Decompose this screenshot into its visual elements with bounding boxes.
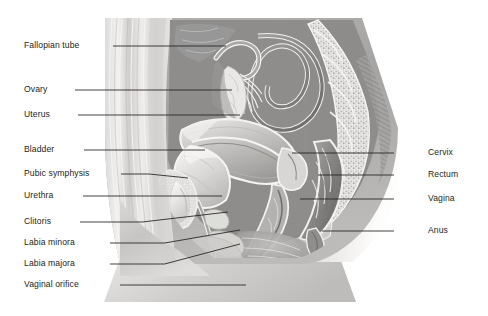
label-rectum: Rectum xyxy=(428,169,458,179)
label-vaginal-orifice: Vaginal orifice xyxy=(24,279,79,289)
label-pubic-symphysis: Pubic symphysis xyxy=(24,168,90,178)
label-labia-majora: Labia majora xyxy=(24,258,75,268)
label-urethra: Urethra xyxy=(24,190,53,200)
label-labia-minora: Labia minora xyxy=(24,237,75,247)
label-fallopian-tube: Fallopian tube xyxy=(24,40,79,50)
label-cervix: Cervix xyxy=(428,147,453,157)
label-vagina: Vagina xyxy=(428,193,455,203)
label-uterus: Uterus xyxy=(24,109,50,119)
label-clitoris: Clitoris xyxy=(24,216,51,226)
label-anus: Anus xyxy=(428,225,448,235)
label-bladder: Bladder xyxy=(24,144,54,154)
label-ovary: Ovary xyxy=(24,84,47,94)
